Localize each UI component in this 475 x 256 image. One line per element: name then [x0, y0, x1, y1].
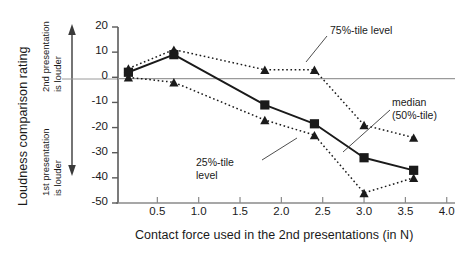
x-tick-label: 1.5	[220, 205, 260, 217]
data-point-marker	[310, 66, 319, 74]
y-tick-label: -30	[74, 145, 108, 157]
leader-line-lower	[262, 138, 297, 160]
data-point-marker	[260, 116, 269, 124]
annotation-line: median	[392, 96, 437, 109]
annotation-25-pctile: 25%-tilelevel	[196, 156, 234, 181]
series-line-75-tile-level	[128, 50, 413, 138]
x-tick-label: 3.0	[344, 205, 384, 217]
x-tick-label: 4.0	[427, 205, 467, 217]
x-tick-label: 2.5	[303, 205, 343, 217]
y-tick-label: -40	[74, 170, 108, 182]
data-point-marker	[169, 50, 178, 59]
data-point-marker	[409, 166, 418, 175]
annotation-line: (50%-tile)	[392, 109, 437, 122]
x-tick-label: 2.0	[261, 205, 301, 217]
x-tick-label: 3.5	[385, 205, 425, 217]
x-axis-ticks	[157, 197, 446, 203]
data-point-marker	[310, 119, 319, 128]
data-markers-group	[124, 45, 418, 197]
leader-line-median	[343, 110, 390, 152]
annotation-line: level	[196, 169, 234, 182]
y-tick-label: 0	[74, 69, 108, 81]
data-point-marker	[409, 133, 418, 141]
y-tick-label: -20	[74, 120, 108, 132]
leader-line-upper	[306, 36, 327, 62]
y-tick-label: 10	[74, 44, 108, 56]
series-line-25-tile-level	[128, 77, 413, 193]
data-point-marker	[359, 189, 368, 197]
x-tick-label: 0.5	[137, 205, 177, 217]
annotation-leader-lines	[262, 36, 390, 160]
plot-canvas	[0, 0, 475, 256]
y-tick-label: -10	[74, 94, 108, 106]
data-point-marker	[409, 174, 418, 182]
data-point-marker	[260, 100, 269, 109]
y-tick-label: -50	[74, 195, 108, 207]
x-tick-label: 1.0	[179, 205, 219, 217]
annotation-median: median(50%-tile)	[392, 96, 437, 121]
y-tick-label: 20	[74, 19, 108, 31]
annotation-75-pctile: 75%-tile level	[330, 24, 392, 37]
data-point-marker	[310, 131, 319, 139]
loudness-comparison-chart: Loudness comparison rating 2nd presentat…	[0, 0, 475, 256]
data-series-group	[128, 50, 413, 193]
series-line-median-50-tile-	[128, 55, 413, 171]
annotation-line: 75%-tile level	[330, 24, 392, 37]
annotation-line: 25%-tile	[196, 156, 234, 169]
data-point-marker	[359, 153, 368, 162]
y-axis-ticks	[112, 27, 118, 203]
